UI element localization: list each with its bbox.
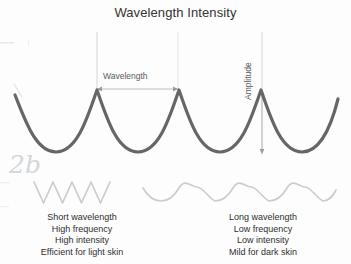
long-wavelength-wave-path xyxy=(143,183,336,201)
caption-line: Low intensity xyxy=(188,235,338,247)
short-wavelength-wave-path xyxy=(34,182,110,203)
long-wavelength-caption: Long wavelength Low frequency Low intens… xyxy=(188,212,338,258)
figure-canvas: Wavelength Intensity xyxy=(0,0,351,264)
amplitude-annotation-label: Amplitude xyxy=(243,62,253,100)
caption-line: High intensity xyxy=(8,235,156,247)
scan-artifacts xyxy=(0,40,29,207)
caption-line: High frequency xyxy=(8,224,156,236)
wavelength-annotation-label: Wavelength xyxy=(103,71,148,81)
main-wave-path xyxy=(15,90,338,152)
caption-line: Low frequency xyxy=(188,224,338,236)
short-wavelength-caption: Short wavelength High frequency High int… xyxy=(8,212,156,258)
wavelength-arrow xyxy=(97,87,178,92)
caption-line: Mild for dark skin xyxy=(188,247,338,259)
caption-line: Short wavelength xyxy=(8,212,156,224)
caption-line: Efficient for light skin xyxy=(8,247,156,259)
handwritten-note: 2b xyxy=(9,150,41,179)
caption-line: Long wavelength xyxy=(188,212,338,224)
